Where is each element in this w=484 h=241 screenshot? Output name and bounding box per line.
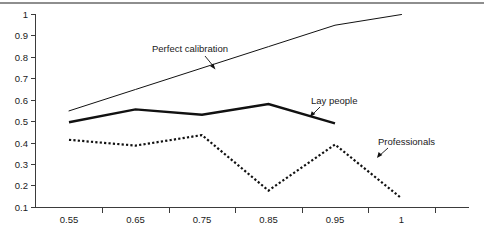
y-tick-label-0.6: 0.6 — [15, 95, 28, 106]
annotation-label-professionals: Professionals — [378, 136, 435, 147]
y-tick-label-0.1: 0.1 — [15, 202, 28, 213]
x-tick-label-1: 1 — [399, 214, 404, 225]
x-tick-label-0.55: 0.55 — [60, 214, 79, 225]
series-line-lay-people — [69, 104, 335, 123]
y-tick-label-0.7: 0.7 — [15, 73, 28, 84]
y-tick-label-0.9: 0.9 — [15, 30, 28, 41]
x-tick-label-0.85: 0.85 — [259, 214, 278, 225]
x-tick-label-0.65: 0.65 — [126, 214, 145, 225]
annotation-perfect-calibration: Perfect calibration — [152, 43, 228, 70]
x-axis-tick-labels: 0.55 0.65 0.75 0.85 0.95 1 — [60, 214, 404, 225]
y-tick-label-0.2: 0.2 — [15, 180, 28, 191]
y-tick-label-0.8: 0.8 — [15, 52, 28, 63]
calibration-line-chart: 1 0.9 0.8 0.7 0.6 0.5 0.4 0.3 0.2 0.1 — [0, 0, 484, 241]
y-tick-label-0.3: 0.3 — [15, 159, 28, 170]
y-tick-label-0.4: 0.4 — [15, 138, 28, 149]
annotation-label-perfect-calibration: Perfect calibration — [152, 43, 228, 54]
annotation-professionals: Professionals — [377, 136, 435, 158]
annotation-arrow-icon-professionals — [377, 152, 382, 158]
y-tick-label-1: 1 — [23, 9, 28, 20]
x-axis: 0.55 0.65 0.75 0.85 0.95 1 — [36, 208, 470, 226]
plot-area — [69, 15, 402, 199]
x-axis-ticks — [102, 208, 435, 214]
y-axis: 1 0.9 0.8 0.7 0.6 0.5 0.4 0.3 0.2 0.1 — [15, 9, 36, 213]
chart-container: 1 0.9 0.8 0.7 0.6 0.5 0.4 0.3 0.2 0.1 — [0, 0, 484, 241]
y-axis-tick-labels: 1 0.9 0.8 0.7 0.6 0.5 0.4 0.3 0.2 0.1 — [15, 9, 28, 213]
annotation-label-lay-people: Lay people — [311, 95, 357, 106]
x-tick-label-0.95: 0.95 — [326, 214, 345, 225]
x-tick-label-0.75: 0.75 — [193, 214, 212, 225]
y-axis-ticks — [31, 15, 36, 208]
y-tick-label-0.5: 0.5 — [15, 116, 28, 127]
annotation-lay-people: Lay people — [310, 95, 357, 117]
series-line-professionals — [69, 135, 402, 198]
